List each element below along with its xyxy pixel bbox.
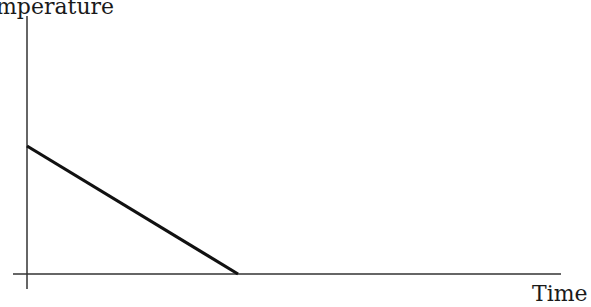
temperature-line bbox=[27, 146, 238, 274]
chart-svg bbox=[0, 0, 591, 307]
temperature-time-chart: Temperature Time bbox=[0, 0, 591, 307]
x-axis-label: Time bbox=[532, 281, 588, 306]
y-axis-label: Temperature bbox=[0, 0, 114, 19]
